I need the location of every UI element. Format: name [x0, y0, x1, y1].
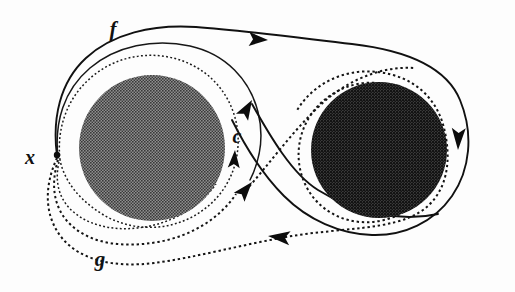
label-g: g	[94, 247, 106, 271]
label-x: x	[24, 146, 35, 168]
figure-eight-diagram: f x c g	[0, 0, 515, 292]
figure-container: f x c g	[0, 0, 515, 292]
label-c: c	[233, 125, 242, 147]
left-disc	[79, 75, 225, 221]
basepoint-dot	[54, 152, 60, 158]
right-disc	[311, 82, 447, 218]
